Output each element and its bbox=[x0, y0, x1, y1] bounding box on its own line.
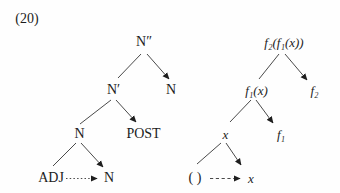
edge-n-to-adj bbox=[53, 143, 76, 166]
edge-n-to-nbottom-arrow bbox=[81, 143, 103, 167]
edge-nbarbar-to-nbar bbox=[118, 54, 141, 78]
node-post: POST bbox=[126, 127, 160, 141]
node-empty-parens: ( ) bbox=[189, 171, 202, 185]
node-n-bottom: N bbox=[104, 171, 114, 185]
edge-x-to-xbottom-arrow bbox=[226, 143, 241, 165]
node-n-double-bar: N″ bbox=[136, 35, 152, 49]
edge-x-to-empty bbox=[197, 143, 221, 164]
node-n-bar: N′ bbox=[107, 83, 120, 97]
node-f2-of-f1x: f₂(f₁(x)) bbox=[264, 36, 303, 49]
node-adj: ADJ bbox=[38, 171, 64, 185]
edge-f2f1x-to-f2-arrow bbox=[285, 54, 307, 80]
figure-20-tree-diagram: (20) N″ N′ N N POST ADJ N f₂(f₁(x)) f₁(x… bbox=[0, 0, 340, 193]
node-f2: f₂ bbox=[310, 84, 318, 97]
edge-nbarbar-to-n-arrow bbox=[147, 54, 169, 79]
node-n-right: N bbox=[166, 83, 176, 97]
edge-f1x-to-f1-arrow bbox=[256, 100, 273, 123]
figure-number: (20) bbox=[15, 12, 38, 26]
edge-f1x-to-x bbox=[230, 100, 251, 122]
node-x-mid: x bbox=[223, 128, 229, 141]
edge-nbar-to-n bbox=[80, 100, 111, 124]
edge-f2f1x-to-f1x bbox=[259, 54, 279, 79]
node-x-bottom: x bbox=[248, 172, 254, 185]
edge-nbar-to-post-arrow bbox=[116, 100, 136, 122]
node-f1: f₁ bbox=[277, 127, 285, 140]
node-n-mid: N bbox=[74, 127, 84, 141]
node-f1-of-x: f₁(x) bbox=[245, 84, 268, 97]
